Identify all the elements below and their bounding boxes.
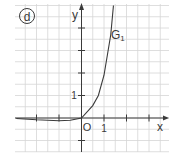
y-axis-label: y <box>72 8 78 22</box>
panel-label: d <box>24 10 31 24</box>
y-tick-label-1: 1 <box>71 90 77 101</box>
y-axis-arrow-icon <box>79 3 84 10</box>
curve-label-g1: G1 <box>111 28 125 43</box>
origin-label: O <box>83 121 92 133</box>
function-graph-plot: d y x O 1 1 G1 <box>0 0 177 156</box>
x-tick-label-1: 1 <box>101 123 107 134</box>
grid-lines <box>15 4 169 152</box>
x-axis-label: x <box>157 120 163 134</box>
x-axis-arrow-icon <box>163 116 169 121</box>
